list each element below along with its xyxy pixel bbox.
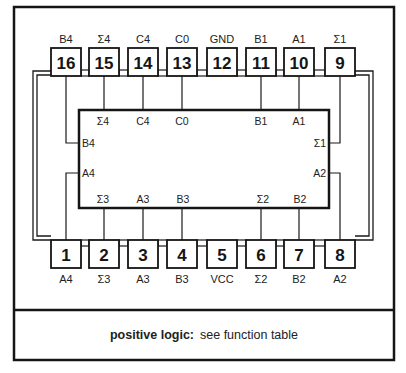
inner-label-sum3: Σ3 (97, 193, 109, 205)
top-pin-9: 9Σ1 (325, 33, 355, 76)
top-pin-11: 11B1 (246, 33, 284, 76)
pin-stub (237, 240, 246, 246)
package-outline (33, 71, 373, 240)
wire-pin8-a2 (329, 173, 340, 240)
inner-label-b1: B1 (255, 115, 268, 127)
pin-label: B1 (254, 33, 267, 45)
pin-number: 6 (256, 246, 265, 265)
pin-stub (119, 70, 128, 76)
bottom-pin-5: 5VCC (207, 240, 246, 285)
wire-pin1-a4 (66, 173, 79, 240)
package-right-inner (355, 75, 369, 236)
inner-label-a2: A2 (313, 167, 326, 179)
inner-label-b2: B2 (294, 193, 307, 205)
bottom-pin-2: 2Σ3 (89, 240, 128, 285)
bottom-pin-4: 4B3 (167, 240, 207, 285)
pin-label: B4 (59, 33, 72, 45)
pin-stub (81, 240, 89, 246)
pin-stub (158, 70, 167, 76)
bottom-pin-7: 7B2 (284, 240, 325, 285)
bottom-pin-1: 1A4 (51, 240, 89, 285)
pin-label: Σ1 (334, 33, 347, 45)
pin-stub (276, 240, 284, 246)
package-left-outer (33, 71, 51, 240)
pin-number: 5 (217, 246, 226, 265)
pin-stub (314, 240, 325, 246)
pin-number: 1 (61, 246, 70, 265)
pin-stub (237, 70, 246, 76)
inner-label-c0: C0 (175, 115, 189, 127)
inner-label-sum2: Σ2 (257, 193, 269, 205)
pin-number: 3 (138, 246, 147, 265)
inner-label-b3: B3 (177, 193, 190, 205)
pin-stub (197, 70, 207, 76)
pin-label: A3 (136, 273, 149, 285)
pin-label: A2 (333, 273, 346, 285)
inner-label-a3: A3 (137, 193, 150, 205)
pin-number: 4 (177, 246, 187, 265)
pin-label: C4 (136, 33, 150, 45)
bottom-pin-3: 3A3 (128, 240, 167, 285)
pin-stub (158, 240, 167, 246)
inner-label-a1: A1 (293, 115, 306, 127)
inner-label-sum4: Σ4 (97, 115, 109, 127)
pin-label: C0 (175, 33, 189, 45)
pin-stub (81, 70, 89, 76)
inner-label-b4: B4 (82, 137, 95, 149)
inner-label-c4: C4 (136, 115, 150, 127)
pin-stub (314, 70, 325, 76)
pin-label: Σ3 (98, 273, 111, 285)
pin-number: 14 (134, 54, 153, 73)
pin-number: 12 (213, 54, 232, 73)
pin-label: B2 (292, 273, 305, 285)
top-pin-13: 13C0 (167, 33, 207, 76)
top-pin-12: 12GND (207, 33, 246, 76)
inner-label-sum1: Σ1 (314, 137, 326, 149)
package-left-inner (37, 75, 51, 236)
footer-text: see function table (200, 328, 298, 342)
pin-stub (276, 70, 284, 76)
pin-number: 2 (99, 246, 108, 265)
pin-stub (197, 240, 207, 246)
bottom-pin-6: 6Σ2 (246, 240, 284, 285)
pin-label: Σ2 (255, 273, 268, 285)
footer-note: positive logic: see function table (14, 310, 394, 360)
logic-box (79, 110, 329, 208)
top-pin-15: 15Σ4 (89, 33, 128, 76)
bottom-pin-8: 8A2 (325, 240, 355, 285)
pin-number: 9 (335, 54, 344, 73)
pin-label: VCC (210, 273, 233, 285)
pin-number: 7 (294, 246, 303, 265)
wire-pin9-sum1 (329, 76, 340, 143)
pin-label: GND (210, 33, 235, 45)
top-pin-16: 16B4 (51, 33, 89, 76)
pin-number: 15 (95, 54, 114, 73)
pin-number: 11 (252, 54, 270, 73)
pin-label: B3 (175, 273, 188, 285)
pin-number: 8 (335, 246, 344, 265)
inner-label-a4: A4 (82, 167, 95, 179)
top-pin-14: 14C4 (128, 33, 167, 76)
pin-number: 13 (173, 54, 192, 73)
pin-label: A1 (292, 33, 305, 45)
pin-label: Σ4 (98, 33, 111, 45)
package-right-outer (355, 71, 373, 240)
pin-number: 10 (290, 54, 309, 73)
pin-stub (119, 240, 128, 246)
footer-bold-label: positive logic: (110, 328, 194, 342)
wire-pin16-b4 (66, 76, 79, 143)
pin-label: A4 (59, 273, 72, 285)
pin-number: 16 (57, 54, 76, 73)
top-pin-10: 10A1 (284, 33, 325, 76)
